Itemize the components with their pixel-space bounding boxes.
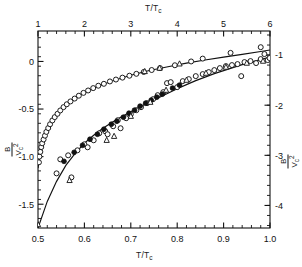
top-tick-label-2: 3 <box>128 19 133 29</box>
data-point-open-circle <box>200 56 205 61</box>
data-point-open-circle <box>262 52 267 57</box>
data-point-open-circle <box>38 149 43 154</box>
bottom-axis-title: T/Tc <box>136 250 153 261</box>
data-point-open-circle <box>229 63 234 68</box>
top-tick-label-1: 2 <box>82 19 87 29</box>
data-point-triangle <box>111 133 116 138</box>
data-point-open-circle <box>96 83 101 88</box>
top-tick-label-0: 1 <box>35 19 40 29</box>
data-point-open-circle <box>193 74 198 79</box>
data-point-open-circle <box>254 61 259 66</box>
data-point-open-circle <box>76 93 81 98</box>
data-point-open-circle <box>258 45 263 50</box>
right-axis-title: B Vc2 <box>280 133 301 169</box>
data-point-open-circle <box>168 80 173 85</box>
left-tick-label-3: -1.5 <box>18 200 34 210</box>
data-point-open-circle <box>149 68 154 73</box>
data-point-filled-circle <box>114 119 119 124</box>
right-tick-label-0: -1 <box>275 50 283 60</box>
data-point-filled-circle <box>170 86 175 91</box>
data-point-open-circle <box>172 63 177 68</box>
left-tick-label-1: -0.5 <box>18 104 34 114</box>
right-tick-label-1: -2 <box>275 101 283 111</box>
figure-panel: T/Tc T/Tc B Vc2 B Vc2 0.50.60.70.80.91.0… <box>0 0 302 267</box>
data-point-triangle <box>104 137 109 142</box>
data-point-filled-circle <box>154 95 159 100</box>
data-point-triangle <box>177 61 182 66</box>
data-point-open-circle <box>66 153 71 158</box>
data-point-filled-circle <box>121 115 126 120</box>
bottom-tick-label-1: 0.6 <box>78 234 91 244</box>
left-axis-title: B Vc2 <box>4 121 25 157</box>
bottom-tick-label-5: 1.0 <box>264 234 277 244</box>
data-point-open-circle <box>101 81 106 86</box>
data-point-open-circle <box>107 79 112 84</box>
bottom-tick-label-0: 0.5 <box>32 234 45 244</box>
plot-canvas: 0.50.60.70.80.91.01234560-0.5-1.0-1.5-1-… <box>0 0 302 267</box>
data-point-filled-circle <box>143 101 148 106</box>
top-tick-label-4: 5 <box>221 19 226 29</box>
top-axis-title: T/Tc <box>145 3 162 14</box>
data-point-open-circle <box>54 171 59 176</box>
data-point-open-circle <box>127 73 132 78</box>
top-tick-label-3: 4 <box>175 19 180 29</box>
data-point-open-circle <box>120 75 125 80</box>
data-point-filled-circle <box>132 108 137 113</box>
data-point-open-circle <box>86 88 91 93</box>
left-tick-label-0: 0 <box>29 57 34 67</box>
plot-frame <box>38 31 270 228</box>
data-point-open-circle <box>267 56 272 61</box>
bottom-tick-label-2: 0.7 <box>125 234 138 244</box>
data-point-open-circle <box>85 145 90 150</box>
right-tick-label-3: -4 <box>275 201 283 211</box>
data-point-filled-circle <box>109 122 114 127</box>
data-point-open-circle <box>105 132 110 137</box>
data-point-filled-circle <box>62 159 67 164</box>
data-point-open-circle <box>217 66 222 71</box>
data-point-open-circle <box>189 59 194 64</box>
data-point-open-circle <box>134 71 139 76</box>
data-point-filled-circle <box>80 143 85 148</box>
top-tick-label-5: 6 <box>267 19 272 29</box>
data-point-open-circle <box>235 62 240 67</box>
data-point-open-circle <box>118 126 123 131</box>
data-point-filled-circle <box>72 150 77 155</box>
data-point-filled-circle <box>177 83 182 88</box>
lower-fit-line <box>38 57 270 228</box>
data-point-filled-circle <box>95 132 100 137</box>
data-point-filled-circle <box>138 104 143 109</box>
bottom-tick-label-3: 0.8 <box>171 234 184 244</box>
data-point-open-circle <box>248 59 253 64</box>
lower-branch-triangles <box>35 58 265 227</box>
data-point-open-circle <box>212 68 217 73</box>
bottom-tick-label-4: 0.9 <box>217 234 230 244</box>
data-point-open-circle <box>36 160 41 165</box>
data-point-open-circle <box>113 77 118 82</box>
lower-branch-open-circles <box>54 52 272 180</box>
data-point-filled-circle <box>88 137 93 142</box>
data-point-filled-circle <box>101 127 106 132</box>
data-point-open-circle <box>239 74 244 79</box>
data-point-open-circle <box>228 50 233 55</box>
data-point-open-circle <box>91 86 96 91</box>
